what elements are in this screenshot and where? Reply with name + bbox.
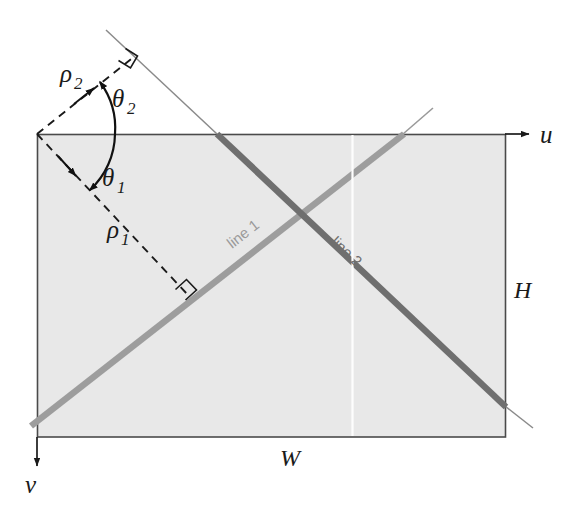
height-dimension-label: H [513,277,533,303]
line2-extension-upper [106,30,217,134]
rho1-label-subscript: 1 [121,230,130,249]
theta2-label-subscript: 2 [127,99,136,118]
rho1-label-symbol: ρ [106,216,119,243]
width-dimension-label: W [280,445,302,471]
theta1-label-symbol: θ [102,164,114,191]
figure-root: u v H W ρ 1 ρ 2 θ 1 θ 2 line 1 line 2 [0,0,587,520]
rho2-label-subscript: 2 [74,74,83,93]
rho2-label-symbol: ρ [59,60,72,87]
line1-extension-upper [403,108,433,134]
v-axis-label: v [25,471,37,498]
theta2-label: θ 2 [112,85,136,118]
diagram-canvas: u v H W ρ 1 ρ 2 θ 1 θ 2 line 1 line 2 [0,0,587,520]
theta2-label-symbol: θ [112,85,124,112]
u-axis-label: u [540,121,553,148]
line2-extension-lower [505,406,533,428]
theta1-label-subscript: 1 [117,178,126,197]
rho2-label: ρ 2 [59,60,83,93]
